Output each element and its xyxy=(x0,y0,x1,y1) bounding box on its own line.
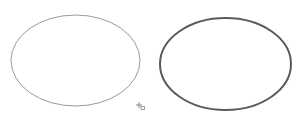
crosshair-shape-cursor-icon xyxy=(136,102,145,110)
ellipse-shape-thick[interactable] xyxy=(160,18,291,110)
canvas-svg xyxy=(0,0,298,130)
ellipse-shape-thin[interactable] xyxy=(11,15,140,106)
drawing-canvas[interactable] xyxy=(0,0,298,130)
